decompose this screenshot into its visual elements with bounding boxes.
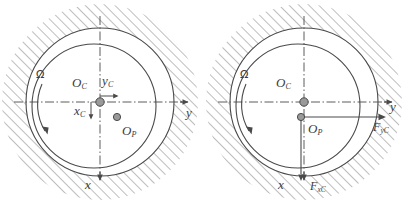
global-y-axis-label-left: y <box>186 106 192 119</box>
pressure-center-node <box>113 113 120 120</box>
journal-center-label-right: OC <box>276 76 291 91</box>
figure-canvas: Ω OC yC xC OP y x <box>0 0 409 205</box>
journal-center-label-left: OC <box>72 76 87 91</box>
global-x-axis-label-right: x <box>278 178 284 191</box>
pressure-center-node <box>297 113 304 120</box>
right-diagram-svg <box>204 0 409 205</box>
journal-center-node <box>300 98 308 106</box>
global-x-axis-label-left: x <box>85 178 91 191</box>
omega-label-right: Ω <box>240 69 248 80</box>
diagram-panel-left: Ω OC yC xC OP y x <box>0 0 205 205</box>
pressure-center-label-left: OP <box>122 124 137 139</box>
pressure-center-label-right: OP <box>308 122 323 137</box>
journal-center-node <box>96 98 104 106</box>
local-y-axis-label-left: yC <box>102 74 113 89</box>
diagram-panel-right: Ω OC OP y FyC x FxC <box>204 0 409 205</box>
omega-label-left: Ω <box>36 69 44 80</box>
left-diagram-svg <box>0 0 205 205</box>
global-y-axis-label-right: y <box>390 100 396 113</box>
force-y-label: FyC <box>373 121 389 134</box>
local-x-axis-label-left: xC <box>74 104 85 119</box>
force-x-label: FxC <box>310 180 326 193</box>
